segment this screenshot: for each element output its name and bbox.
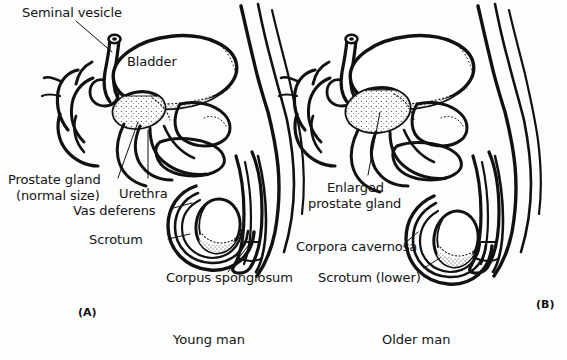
label-prostate-gland: Prostate gland: [8, 172, 101, 187]
label-prostate-gland-size: (normal size): [16, 188, 100, 203]
caption-young-man: Young man: [173, 332, 245, 347]
panel-id-b: (B): [536, 298, 554, 311]
label-enlarged: Enlarged: [327, 180, 384, 195]
leader-seminal-vesicle: [76, 21, 112, 52]
label-scrotum-lower: Scrotum (lower): [318, 270, 421, 285]
bowel-loops-a: [42, 62, 98, 166]
testis-b: [430, 208, 482, 274]
panel-a-drawing: [42, 4, 304, 276]
label-corpus-spongiosum: Corpus spongiosum: [166, 270, 293, 285]
label-urethra: Urethra: [119, 186, 168, 201]
testis-a: [192, 196, 244, 260]
bowel-loops-b: [279, 62, 335, 166]
label-enlarged-prostate-gland: prostate gland: [308, 196, 401, 211]
figure-canvas: Seminal vesicle Bladder Prostate gland (…: [0, 0, 567, 360]
panel-id-a: (A): [78, 306, 97, 319]
label-corpora-cavernosa: Corpora cavernosa: [296, 239, 417, 254]
caption-older-man: Older man: [382, 332, 450, 347]
label-seminal-vesicle: Seminal vesicle: [22, 5, 122, 20]
leader-scrotum: [168, 234, 190, 239]
label-vas-deferens: Vas deferens: [73, 203, 155, 218]
penis-shaft-b: [470, 152, 503, 273]
label-bladder: Bladder: [127, 54, 177, 69]
label-scrotum: Scrotum: [89, 232, 143, 247]
